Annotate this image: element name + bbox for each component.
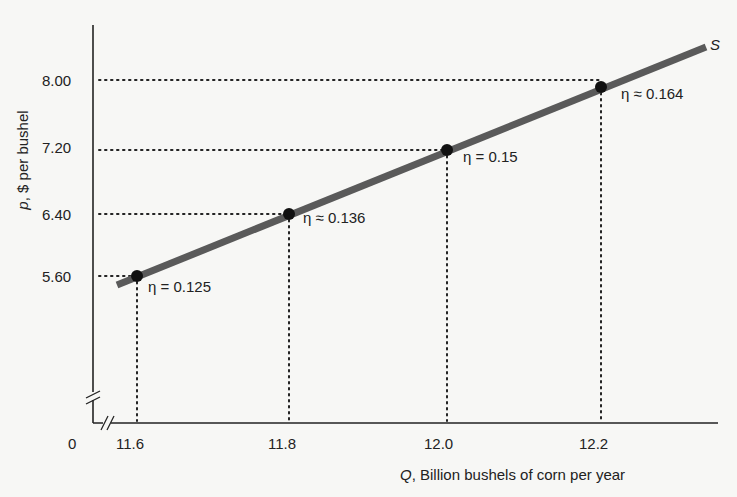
- y-tick: 7.20: [42, 139, 71, 156]
- data-point: [441, 144, 453, 156]
- y-tick: 8.00: [42, 72, 71, 89]
- data-point: [131, 270, 143, 282]
- y-axis-text: , $ per bushel: [14, 110, 31, 201]
- y-axis-label: p, $ per bushel: [14, 110, 31, 210]
- origin-label: 0: [68, 435, 76, 452]
- guide-lines: [99, 80, 601, 421]
- elasticity-label: η = 0.15: [463, 148, 518, 165]
- x-axis-var: Q: [400, 466, 412, 483]
- y-axis-var: p: [14, 201, 31, 210]
- x-tick: 12.0: [424, 435, 453, 452]
- x-tick: 11.6: [116, 435, 144, 452]
- elasticity-label: η = 0.125: [148, 278, 211, 295]
- x-axis-text: , Billion bushels of corn per year: [412, 466, 625, 483]
- x-tick: 11.8: [268, 435, 296, 452]
- data-point: [595, 81, 607, 93]
- data-point: [283, 208, 295, 220]
- x-axis-label: Q, Billion bushels of corn per year: [400, 466, 625, 483]
- x-tick: 12.2: [579, 435, 608, 452]
- supply-curve: [117, 47, 706, 285]
- curve-label: S: [710, 36, 720, 53]
- y-tick: 5.60: [42, 268, 71, 285]
- elasticity-label: η ≈ 0.164: [621, 85, 683, 102]
- y-tick: 6.40: [42, 206, 71, 223]
- elasticity-label: η ≈ 0.136: [303, 209, 365, 226]
- supply-chart: η = 0.125 η ≈ 0.136 η = 0.15 η ≈ 0.164 S…: [0, 0, 737, 497]
